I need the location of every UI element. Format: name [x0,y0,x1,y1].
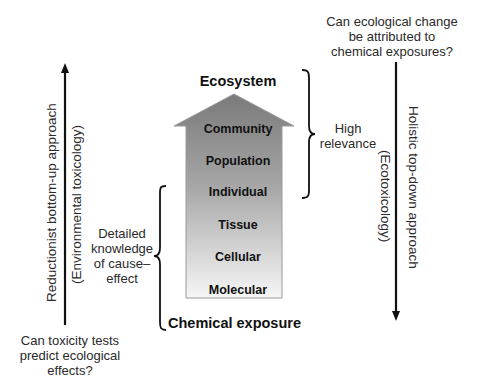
chemical-exposure-label: Chemical exposure [168,315,301,331]
detailed-knowledge-note: Detailed knowledge of cause– effect [88,226,156,286]
level-molecular: Molecular [186,283,290,297]
ecosystem-label: Ecosystem [188,73,288,89]
level-tissue: Tissue [186,218,290,232]
level-cellular: Cellular [186,250,290,264]
top-down-approach-label: Holistic top-down approach [406,106,421,269]
environmental-toxicology-label: (Environmental toxicology) [69,125,84,284]
top-down-question: Can ecological change be attributed to c… [306,14,478,59]
bottom-up-approach-label: Reductionist bottom-up approach [44,103,59,302]
level-population: Population [186,154,290,168]
ecotoxicology-label: (Ecotoxicology) [378,150,393,242]
level-community: Community [186,122,290,136]
bottom-up-question: Can toxicity tests predict ecological ef… [10,333,130,378]
high-relevance-note: High relevance [312,121,384,151]
level-individual: Individual [186,185,290,199]
